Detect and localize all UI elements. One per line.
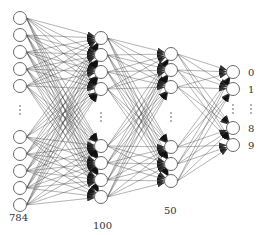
edge-hidden-1-to-hidden-2 — [108, 76, 169, 197]
hidden-1-neuron — [95, 174, 108, 187]
edge-hidden-2-to-output — [178, 95, 230, 181]
edge-hidden-1-to-hidden-2 — [108, 70, 165, 72]
edge-input-to-hidden-1 — [27, 52, 96, 86]
edge-hidden-1-to-hidden-2 — [108, 72, 165, 89]
edge-hidden-2-to-output — [178, 70, 227, 72]
edge-input-to-hidden-1 — [27, 60, 98, 154]
edge-hidden-2-to-output — [178, 132, 229, 181]
input-ellipsis-dot — [19, 105, 21, 107]
edge-hidden-2-to-output — [178, 147, 227, 164]
edge-hidden-2-to-output — [178, 145, 227, 147]
output-label-9: 9 — [248, 140, 254, 151]
edge-hidden-1-to-hidden-2 — [108, 151, 166, 197]
hidden-2-ellipsis-dot — [170, 116, 172, 118]
hidden-2-neuron — [165, 158, 178, 171]
edge-hidden-1-to-hidden-2 — [108, 72, 167, 142]
hidden-1-neuron — [95, 157, 108, 170]
edge-hidden-1-to-hidden-2 — [108, 60, 169, 180]
output-ellipsis-dot — [232, 112, 234, 114]
edge-input-to-hidden-1 — [27, 18, 96, 52]
edge-input-to-hidden-1 — [27, 60, 98, 171]
input-neuron — [14, 199, 27, 212]
edge-input-to-hidden-1 — [27, 52, 95, 55]
edge-hidden-2-to-output — [178, 54, 227, 70]
hidden-1-ellipsis-dot — [100, 120, 102, 122]
input-ellipsis-dot — [19, 109, 21, 111]
output-ellipsis-dot — [232, 104, 234, 106]
input-neuron — [14, 12, 27, 25]
edge-hidden-2-to-output — [178, 78, 230, 164]
hidden-2-neuron — [165, 141, 178, 154]
edge-hidden-2-to-output — [178, 132, 228, 164]
hidden-2-ellipsis-dot — [170, 112, 172, 114]
output-neuron — [227, 83, 240, 96]
edge-hidden-1-to-hidden-2 — [108, 60, 168, 163]
hidden-2-neuron — [165, 81, 178, 94]
output-neuron — [227, 66, 240, 79]
input-neuron — [14, 131, 27, 144]
edge-hidden-2-to-output — [178, 77, 230, 147]
hidden-2-ellipsis-dot — [170, 120, 172, 122]
output-neuron — [227, 122, 240, 135]
hidden-1-neuron — [95, 66, 108, 79]
neural-network-diagram: 784 100 50 0 1 8 9 — [0, 0, 265, 235]
output-label-0: 0 — [248, 67, 254, 78]
hidden-1-neuron — [95, 140, 108, 153]
edge-hidden-1-to-hidden-2 — [108, 38, 165, 52]
output-label-ellipsis-dot — [250, 108, 252, 110]
connection-edges — [27, 18, 231, 205]
hidden1-layer-size-label: 100 — [93, 220, 112, 231]
input-neuron — [14, 148, 27, 161]
output-label-ellipsis-dot — [250, 104, 252, 106]
hidden-2-neuron — [165, 175, 178, 188]
input-layer-size-label: 784 — [9, 212, 28, 223]
hidden-1-ellipsis-dot — [100, 116, 102, 118]
edge-input-to-hidden-1 — [27, 43, 98, 154]
hidden-1-neuron — [95, 32, 108, 45]
output-label-1: 1 — [248, 84, 254, 95]
output-label-ellipsis-dot — [250, 112, 252, 114]
input-neuron — [14, 182, 27, 195]
output-neuron — [227, 139, 240, 152]
edge-input-to-hidden-1 — [27, 18, 95, 36]
input-neuron — [14, 80, 27, 93]
edge-input-to-hidden-1 — [27, 77, 98, 188]
edge-input-to-hidden-1 — [27, 39, 95, 52]
edge-hidden-1-to-hidden-2 — [108, 183, 165, 197]
input-neuron — [14, 46, 27, 59]
neuron-nodes — [14, 12, 252, 212]
output-label-8: 8 — [248, 123, 254, 134]
edge-hidden-2-to-output — [178, 149, 228, 181]
input-neuron — [14, 165, 27, 178]
edge-hidden-2-to-output — [178, 87, 227, 89]
edge-hidden-2-to-output — [178, 87, 228, 124]
input-neuron — [14, 63, 27, 76]
edge-hidden-2-to-output — [178, 70, 227, 87]
hidden-2-neuron — [165, 48, 178, 61]
edge-hidden-2-to-output — [178, 54, 228, 86]
edge-hidden-1-to-hidden-2 — [108, 60, 169, 197]
edge-hidden-1-to-hidden-2 — [108, 38, 168, 141]
edge-hidden-2-to-output — [178, 70, 229, 123]
output-ellipsis-dot — [232, 108, 234, 110]
edge-hidden-1-to-hidden-2 — [108, 38, 166, 83]
hidden2-layer-size-label: 50 — [164, 205, 177, 216]
edge-input-to-hidden-1 — [27, 56, 95, 69]
edge-hidden-2-to-output — [178, 54, 230, 139]
edge-hidden-1-to-hidden-2 — [108, 55, 169, 175]
hidden-1-neuron — [95, 83, 108, 96]
hidden-1-neuron — [95, 49, 108, 62]
hidden-1-neuron — [95, 191, 108, 204]
input-neuron — [14, 29, 27, 42]
edge-hidden-2-to-output — [178, 78, 231, 181]
hidden-2-neuron — [165, 64, 178, 77]
edge-input-to-hidden-1 — [27, 35, 95, 38]
input-ellipsis-dot — [19, 113, 21, 115]
edge-input-to-hidden-1 — [27, 18, 97, 85]
edge-hidden-1-to-hidden-2 — [108, 55, 165, 69]
edge-hidden-1-to-hidden-2 — [108, 55, 168, 142]
hidden-1-ellipsis-dot — [100, 112, 102, 114]
